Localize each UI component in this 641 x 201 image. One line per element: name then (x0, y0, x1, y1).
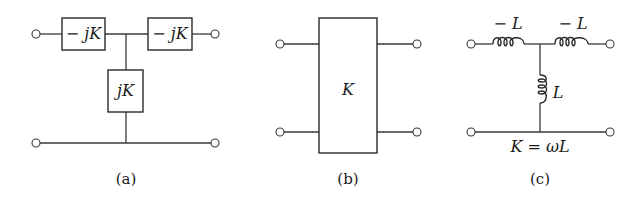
terminal-b-top-left (276, 40, 284, 48)
panel-c: − L − L L K = ωL (c) (467, 14, 614, 188)
inductor-right-icon (555, 38, 588, 46)
terminal-c-bottom-left (467, 128, 475, 136)
impedance-inverter-figure: − jK − jK jK (a) K (b) (0, 0, 641, 201)
panel-a-caption: (a) (116, 170, 137, 188)
terminal-c-top-left (467, 40, 475, 48)
inductor-left-icon (493, 38, 524, 46)
terminal-c-top-right (606, 40, 614, 48)
shunt-impedance-label: jK (114, 81, 135, 100)
inductor-left-label: − L (493, 14, 522, 33)
series-impedance-right-label: − jK (152, 24, 188, 43)
terminal-b-top-right (413, 40, 421, 48)
terminal-a-top-left (32, 30, 40, 38)
terminal-b-bottom-left (276, 128, 284, 136)
relation-label: K = ωL (509, 137, 569, 156)
panel-a: − jK − jK jK (a) (32, 18, 219, 188)
inverter-block-label: K (341, 80, 355, 99)
series-impedance-left-label: − jK (66, 24, 102, 43)
inductor-right-label: − L (558, 14, 587, 33)
terminal-b-bottom-right (413, 128, 421, 136)
panel-b: K (b) (276, 18, 421, 188)
panel-b-caption: (b) (337, 170, 358, 188)
terminal-a-top-right (211, 30, 219, 38)
terminal-a-bottom-left (32, 139, 40, 147)
panel-c-caption: (c) (530, 170, 550, 188)
terminal-c-bottom-right (606, 128, 614, 136)
inductor-shunt-label: L (552, 83, 564, 102)
inductor-shunt-icon (538, 75, 546, 103)
terminal-a-bottom-right (211, 139, 219, 147)
